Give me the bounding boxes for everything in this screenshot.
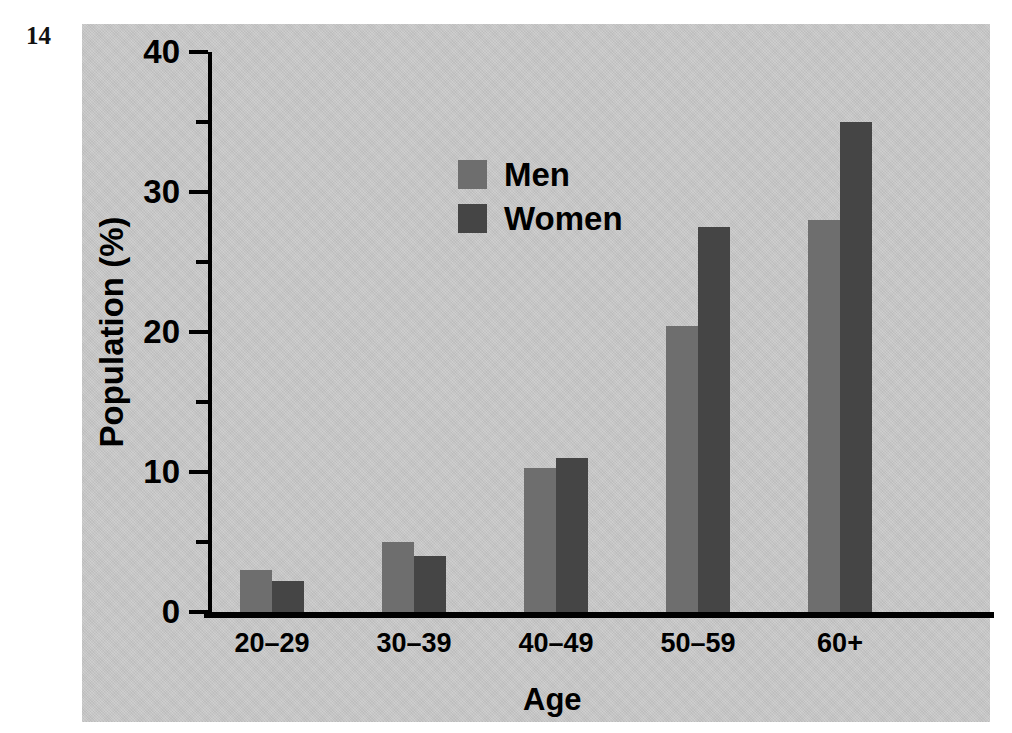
- x-axis-tick-label: 60+: [817, 630, 863, 657]
- legend-swatch-men: [458, 160, 487, 189]
- y-axis-major-tick: [189, 610, 208, 614]
- bar-men-0[interactable]: [240, 570, 272, 612]
- plot-area: 010203040 20–2930–3940–4950–5960+ Age Po…: [208, 52, 990, 612]
- y-axis-minor-tick: [196, 120, 208, 124]
- y-axis-minor-tick: [196, 540, 208, 544]
- y-axis-title: Population (%): [95, 217, 128, 448]
- bar-women-2[interactable]: [556, 458, 588, 612]
- y-axis-major-tick: [189, 190, 208, 194]
- legend-item-men[interactable]: Men: [458, 152, 623, 196]
- legend-label-men: Men: [504, 158, 570, 191]
- y-axis-tick-label: 20: [143, 315, 180, 348]
- bar-group: [524, 52, 588, 612]
- y-axis-tick-label: 0: [162, 595, 180, 628]
- x-axis-tick-label: 20–29: [234, 630, 309, 657]
- y-axis-major-tick: [189, 50, 208, 54]
- bar-women-0[interactable]: [272, 581, 304, 612]
- y-axis-tick-label: 30: [143, 175, 180, 208]
- y-axis-minor-tick: [196, 260, 208, 264]
- bar-men-4[interactable]: [808, 220, 840, 612]
- figure-number: 14: [26, 22, 51, 50]
- y-axis-minor-tick: [196, 400, 208, 404]
- bar-men-2[interactable]: [524, 468, 556, 612]
- x-axis-tick-label: 40–49: [518, 630, 593, 657]
- legend-swatch-women: [458, 204, 487, 233]
- x-axis-tick-label: 50–59: [660, 630, 735, 657]
- bar-women-3[interactable]: [698, 227, 730, 612]
- x-axis-title: Age: [523, 684, 582, 715]
- bar-men-3[interactable]: [666, 326, 698, 612]
- bar-group: [666, 52, 730, 612]
- legend-item-women[interactable]: Women: [458, 196, 623, 240]
- y-axis-line: [208, 52, 212, 612]
- x-axis-line: [204, 612, 994, 618]
- y-axis-major-tick: [189, 470, 208, 474]
- bar-women-1[interactable]: [414, 556, 446, 612]
- chart-panel: 010203040 20–2930–3940–4950–5960+ Age Po…: [82, 24, 990, 722]
- bar-men-1[interactable]: [382, 542, 414, 612]
- bar-group: [382, 52, 446, 612]
- y-axis-tick-label: 10: [143, 455, 180, 488]
- bar-women-4[interactable]: [840, 122, 872, 612]
- y-axis-major-tick: [189, 330, 208, 334]
- legend-label-women: Women: [504, 202, 623, 235]
- bar-group: [240, 52, 304, 612]
- x-axis-tick-label: 30–39: [376, 630, 451, 657]
- chart-legend: MenWomen: [458, 152, 623, 240]
- y-axis-tick-label: 40: [143, 35, 180, 68]
- bar-group: [808, 52, 872, 612]
